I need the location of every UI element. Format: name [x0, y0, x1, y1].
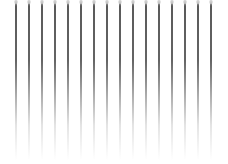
line-cap: [53, 0, 57, 4]
vertical-line: [119, 0, 121, 160]
line-cap: [170, 0, 174, 4]
vertical-line: [158, 0, 160, 160]
vertical-line: [28, 0, 30, 160]
vertical-line: [15, 0, 17, 160]
line-cap: [144, 0, 148, 4]
line-cap: [209, 0, 213, 4]
line-cap: [66, 0, 70, 4]
vertical-lines-canvas: [0, 0, 228, 164]
vertical-line: [67, 0, 69, 160]
vertical-line: [145, 0, 147, 160]
line-cap: [196, 0, 200, 4]
line-cap: [14, 0, 18, 4]
vertical-line: [184, 0, 186, 160]
vertical-line: [41, 0, 43, 160]
line-cap: [131, 0, 135, 4]
line-cap: [27, 0, 31, 4]
vertical-line: [54, 0, 56, 160]
vertical-line: [210, 0, 212, 160]
vertical-line: [106, 0, 108, 160]
line-cap: [79, 0, 83, 4]
vertical-line: [93, 0, 95, 160]
vertical-line: [80, 0, 82, 160]
line-cap: [105, 0, 109, 4]
line-cap: [118, 0, 122, 4]
vertical-line: [197, 0, 199, 160]
line-cap: [40, 0, 44, 4]
line-cap: [183, 0, 187, 4]
line-cap: [157, 0, 161, 4]
vertical-line: [132, 0, 134, 160]
line-cap: [92, 0, 96, 4]
vertical-line: [171, 0, 173, 160]
